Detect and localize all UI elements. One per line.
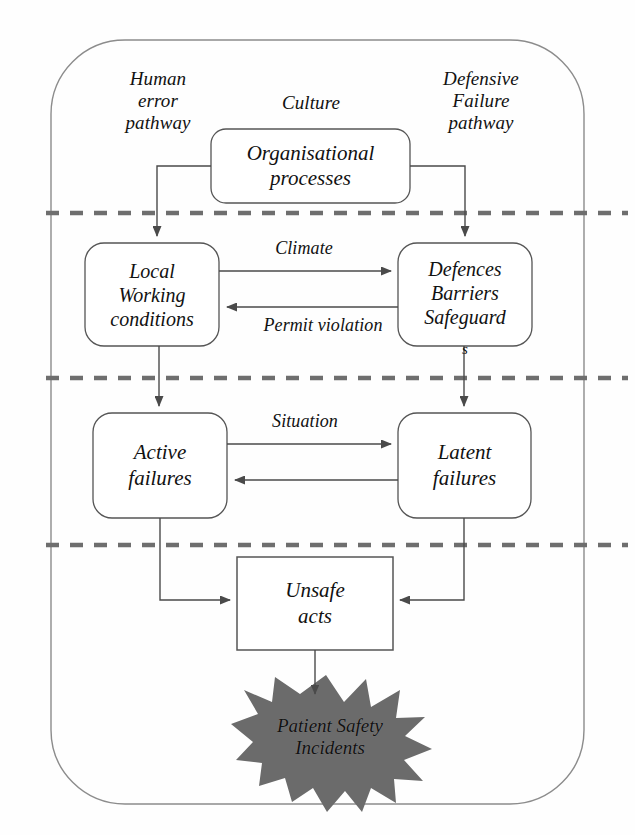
culture-label: Culture	[246, 92, 376, 114]
situation-label: Situation	[245, 411, 365, 432]
edge-organisational-to-local	[157, 166, 211, 236]
human-error-pathway-label: Human error pathway	[96, 68, 220, 134]
defensive-failure-pathway-label: Defensive Failure pathway	[416, 68, 546, 134]
edge-active-to-unsafe	[160, 518, 230, 600]
latent-failures-box[interactable]	[398, 413, 531, 518]
organisational-processes-box[interactable]	[211, 129, 410, 203]
climate-label: Climate	[244, 238, 364, 259]
local-working-conditions-box[interactable]	[85, 243, 219, 346]
diagram-canvas: Human error pathway Culture Defensive Fa…	[0, 0, 635, 835]
permit-violation-label: Permit violation	[233, 315, 413, 336]
safeguards-overflow-label: s	[448, 341, 482, 358]
patient-safety-incidents-label: Patient Safety Incidents	[240, 715, 420, 760]
active-failures-box[interactable]	[93, 413, 227, 518]
edge-organisational-to-defences	[410, 166, 465, 236]
edge-latent-to-unsafe	[400, 518, 464, 600]
defences-barriers-safeguards-box[interactable]	[398, 243, 532, 346]
unsafe-acts-box[interactable]	[237, 557, 393, 650]
